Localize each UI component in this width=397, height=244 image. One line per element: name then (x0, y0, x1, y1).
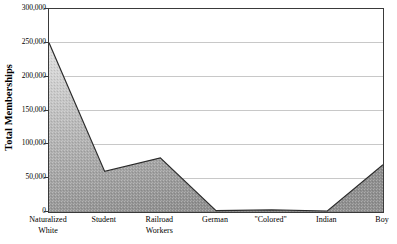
y-axis-tick-label: 250,000 (14, 38, 46, 46)
x-axis-category-label-line1: German (202, 215, 228, 226)
x-axis-category-label-line1: Student (91, 215, 115, 226)
y-axis-tick-label: 0 (14, 207, 46, 215)
chart-container: Total Memberships 050,000100,000150,0002… (0, 0, 397, 244)
x-axis-category-label-line2: White (29, 226, 66, 237)
x-axis-category-label-line1: Boy (375, 215, 388, 226)
y-axis-tick-label: 300,000 (14, 4, 46, 12)
x-axis-category-label-line1: Naturalized (29, 215, 66, 226)
area-fill-texture (49, 43, 383, 212)
y-axis-tick-label: 200,000 (14, 72, 46, 80)
y-axis-tick-label: 50,000 (14, 173, 46, 181)
y-axis-tick-mark (44, 211, 49, 212)
x-axis-tick-labels: NaturalizedWhiteStudentRailroadWorkersGe… (48, 215, 384, 244)
x-axis-category-label: German (202, 215, 228, 226)
plot-svg (49, 9, 383, 212)
y-axis-tick-labels: 050,000100,000150,000200,000250,000300,0… (14, 0, 46, 220)
y-axis-tick-mark (44, 143, 49, 144)
y-axis-tick-mark (44, 110, 49, 111)
y-axis-tick-mark (44, 8, 49, 9)
x-axis-category-label: Boy (375, 215, 388, 226)
y-axis-tick-mark (44, 177, 49, 178)
x-axis-category-label-line2: Workers (146, 226, 174, 237)
x-axis-category-label: Student (91, 215, 115, 226)
x-axis-category-label: "Colored" (255, 215, 287, 226)
y-axis-tick-label: 100,000 (14, 139, 46, 147)
y-axis-tick-mark (44, 76, 49, 77)
y-axis-tick-label: 150,000 (14, 106, 46, 114)
x-axis-category-label: Indian (316, 215, 336, 226)
data-series-area (49, 43, 383, 212)
x-axis-category-label-line1: Railroad (146, 215, 174, 226)
x-axis-category-label: RailroadWorkers (146, 215, 174, 236)
x-axis-category-label: NaturalizedWhite (29, 215, 66, 236)
y-axis-tick-mark (44, 42, 49, 43)
plot-area (48, 8, 384, 213)
y-axis-title-label: Total Memberships (3, 64, 14, 151)
x-axis-category-label-line1: "Colored" (255, 215, 287, 226)
x-axis-category-label-line1: Indian (316, 215, 336, 226)
